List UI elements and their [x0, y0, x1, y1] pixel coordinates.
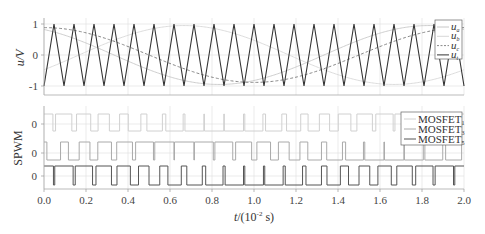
x-tick-label: 1.6: [373, 194, 387, 206]
x-tick-label: 0.2: [79, 194, 93, 206]
x-tick-label: 2.0: [457, 194, 471, 206]
bottom-y-ticks: 000: [32, 118, 45, 182]
x-tick-label: 1.4: [331, 194, 345, 206]
y-tick-label: 0: [32, 147, 38, 159]
x-ticks: 0.00.20.40.60.81.01.21.41.61.82.0: [37, 189, 471, 206]
x-tick-label: 1.8: [415, 194, 429, 206]
x-tick-label: 0.8: [205, 194, 219, 206]
x-tick-label: 0.6: [163, 194, 177, 206]
x-tick-label: 0.0: [37, 194, 51, 206]
top-legend: uaubucut: [435, 20, 462, 61]
top-grid: [44, 18, 464, 95]
y-tick-label: 0: [32, 118, 38, 130]
x-tick-label: 1.2: [289, 194, 303, 206]
spwm-figure: 10-1 u/V uaubucut 000 0.00.20.40.60.81.0…: [0, 0, 485, 234]
y-tick-label: -1: [29, 80, 38, 92]
bottom-plot: 000 0.00.20.40.60.81.01.21.41.61.82.0 SP…: [11, 106, 471, 224]
y-tick-label: 1: [33, 18, 39, 30]
top-ylabel: u/V: [13, 48, 27, 66]
x-tick-label: 1.0: [247, 194, 261, 206]
top-y-ticks: 10-1: [29, 18, 44, 92]
x-tick-label: 0.4: [121, 194, 135, 206]
bottom-legend: MOSFET1MOSFET3MOSFET5: [401, 112, 464, 146]
bottom-ylabel: SPWM: [11, 130, 25, 166]
top-plot: 10-1 u/V uaubucut: [13, 18, 464, 95]
y-tick-label: 0: [33, 49, 39, 61]
y-tick-label: 0: [32, 170, 38, 182]
legend-label: MOSFET5: [418, 133, 464, 146]
x-axis-label: t/(10-2 s): [234, 210, 274, 224]
